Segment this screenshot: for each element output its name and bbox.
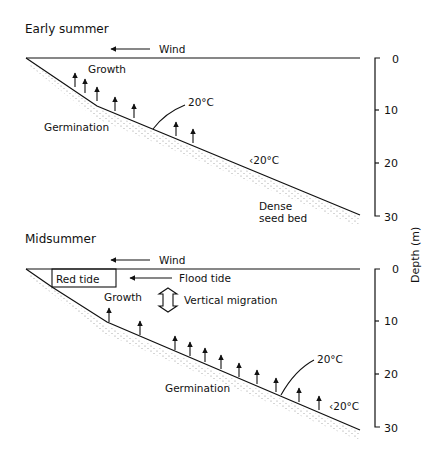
tick-label: 10 bbox=[384, 104, 398, 117]
depth-axis-top: 0 10 20 30 bbox=[375, 53, 399, 224]
isotherm-label: 20°C bbox=[188, 96, 214, 108]
growth-label: Growth bbox=[104, 291, 142, 303]
panel-title: Early summer bbox=[25, 22, 109, 36]
flood-tide-label: Flood tide bbox=[179, 272, 231, 284]
isotherm-label: 20°C bbox=[317, 353, 343, 365]
panel-title: Midsummer bbox=[25, 232, 96, 246]
axis-title: Depth (m) bbox=[409, 227, 422, 283]
sediment-stipple bbox=[30, 62, 360, 226]
tick-label: 20 bbox=[384, 157, 398, 170]
wind-label: Wind bbox=[159, 254, 185, 266]
tick-label: 30 bbox=[384, 211, 398, 224]
tick-label: 0 bbox=[392, 53, 399, 66]
germination-label: Germination bbox=[165, 382, 230, 394]
vertical-migration-label: Vertical migration bbox=[184, 294, 277, 306]
cold-water-label: ‹20°C bbox=[329, 400, 359, 412]
cold-water-label: ‹20°C bbox=[249, 154, 279, 166]
germination-label: Germination bbox=[44, 121, 109, 133]
panel-midsummer: Midsummer Wind Red tide Flood tide Growt… bbox=[25, 232, 399, 440]
seed-bed-label-line2: seed bed bbox=[259, 212, 307, 224]
wind-label: Wind bbox=[159, 43, 185, 55]
isotherm-leader-line bbox=[153, 105, 185, 129]
seed-bed-label-line1: Dense bbox=[259, 200, 292, 212]
panel-early-summer: Early summer Wind Growth Germination 20°… bbox=[25, 22, 399, 226]
red-tide-label: Red tide bbox=[56, 273, 99, 285]
tick-label: 10 bbox=[384, 315, 398, 328]
tick-label: 20 bbox=[384, 368, 398, 381]
tick-label: 0 bbox=[392, 263, 399, 276]
isotherm-leader-line bbox=[281, 360, 314, 395]
diagram-canvas: Early summer Wind Growth Germination 20°… bbox=[0, 0, 438, 455]
upward-arrows bbox=[109, 308, 319, 410]
vertical-migration-arrow-icon bbox=[159, 288, 177, 312]
growth-label: Growth bbox=[88, 63, 126, 75]
tick-label: 30 bbox=[384, 422, 398, 435]
depth-axis-bottom: 0 10 20 30 bbox=[375, 263, 399, 435]
